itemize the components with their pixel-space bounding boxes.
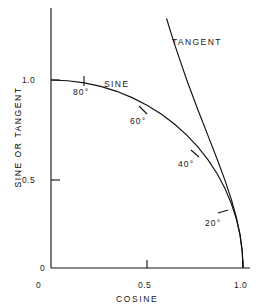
sine-curve <box>51 80 243 268</box>
angle-label-20: 20° <box>205 219 221 228</box>
x-axis-title: COSINE <box>116 295 158 304</box>
x-tick-label-0: 0 <box>36 281 41 290</box>
sine-series-label: SINE <box>104 80 129 89</box>
x-tick-label-0.5: 0.5 <box>138 281 151 290</box>
y-axis-title-wrapper: SINE OR TANGENT <box>7 77 25 197</box>
y-axis-title: SINE OR TANGENT <box>13 86 23 187</box>
angle-label-80: 80° <box>73 88 89 97</box>
angle-label-40: 40° <box>178 160 194 169</box>
x-tick-label-1.0: 1.0 <box>234 281 247 290</box>
chart-figure: 1.0 0.5 0 0 0.5 1.0 COSINE SINE OR TANGE… <box>0 0 259 308</box>
angle-marker-20 <box>218 210 228 213</box>
y-tick-label-0: 0 <box>40 264 45 273</box>
tangent-curve <box>167 19 243 268</box>
angle-label-60: 60° <box>130 117 146 126</box>
angle-marker-40 <box>191 150 199 157</box>
angle-marker-60 <box>139 106 147 114</box>
tangent-series-label: TANGENT <box>172 38 222 47</box>
